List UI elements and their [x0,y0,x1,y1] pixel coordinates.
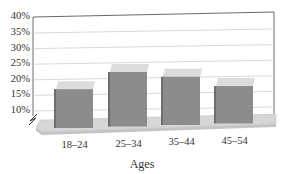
y-tick-label: 15% [0,88,30,99]
y-tick-label: 40% [0,10,30,21]
bar [108,64,149,127]
y-tick-label: 30% [0,42,30,53]
bar [161,69,202,125]
y-tick-label: 25% [0,57,30,68]
x-tick-label: 35–44 [157,136,207,147]
x-tick-label: 18–24 [50,139,100,150]
x-tick-label: 45–54 [210,135,260,146]
x-axis-label: Ages [112,157,172,172]
y-tick-label: 20% [0,73,30,84]
bar [214,78,255,123]
y-tick-label: 10% [0,104,30,115]
bar [54,81,95,128]
y-tick-label: 35% [0,26,30,37]
x-tick-label: 25–34 [104,138,154,149]
